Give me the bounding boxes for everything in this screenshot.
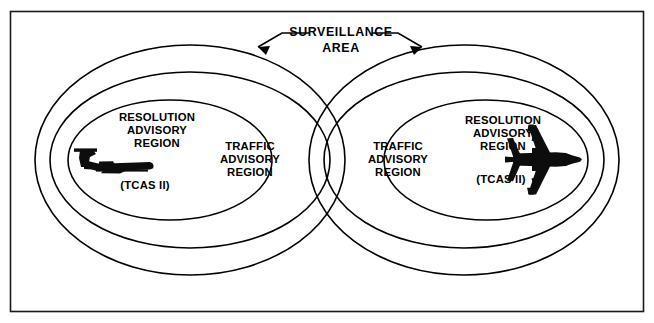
left-arrow-head-icon [258,46,270,55]
left-aircraft-side-view-icon [74,148,154,173]
right-resolution-advisory-label-line3: REGION [480,140,526,152]
surveillance-area-title-line2: AREA [322,41,360,55]
left-resolution-advisory-label-line1: RESOLUTION [119,111,195,123]
right-traffic-advisory-label-line1: TRAFFIC [373,140,423,152]
left-tcas-ii-label: (TCAS II) [120,179,170,191]
right-traffic-advisory-label-line3: REGION [375,166,421,178]
left-traffic-advisory-ellipse [50,72,330,248]
left-resolution-advisory-label-line3: REGION [134,137,180,149]
right-resolution-advisory-label-line2: ADVISORY [473,127,533,139]
left-traffic-advisory-label-line1: TRAFFIC [225,140,275,152]
right-tcas-ii-label: (TCAS II) [476,173,526,185]
tcas-surveillance-area-figure: SURVEILLANCE AREA RESOLUTION ADVISORY RE… [0,0,654,323]
right-arrow-head-icon [410,46,422,55]
left-traffic-advisory-label-line2: ADVISORY [220,153,280,165]
diagram-canvas: SURVEILLANCE AREA RESOLUTION ADVISORY RE… [0,0,654,323]
left-traffic-advisory-label-line3: REGION [227,166,273,178]
right-traffic-advisory-label-line2: ADVISORY [368,153,428,165]
surveillance-area-title-line1: SURVEILLANCE [289,25,392,39]
left-resolution-advisory-label-line2: ADVISORY [127,124,187,136]
right-resolution-advisory-label-line1: RESOLUTION [465,114,541,126]
